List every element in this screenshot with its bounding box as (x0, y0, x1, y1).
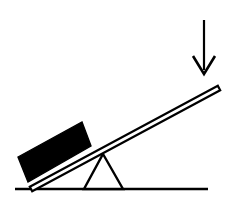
diagram-canvas (0, 0, 235, 212)
lever-diagram-figure: Lever with fulcrum, load block and appli… (0, 0, 235, 212)
